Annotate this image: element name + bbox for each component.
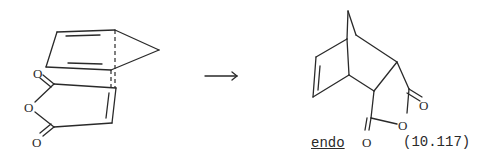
atom-o-bottom: O bbox=[32, 135, 41, 150]
reaction-arrow bbox=[205, 72, 237, 80]
forming-bonds-dashed bbox=[111, 30, 115, 88]
equation-number: (10.117) bbox=[403, 134, 470, 150]
atom-o-top: O bbox=[33, 66, 42, 81]
atom-o-ring-product: O bbox=[398, 118, 407, 133]
atom-o-ring: O bbox=[24, 100, 33, 115]
cyclopentadiene-structure bbox=[46, 30, 159, 70]
maleic-anhydride-structure: O O O bbox=[24, 66, 116, 150]
endo-label: endo bbox=[311, 135, 345, 151]
reaction-figure: O O O O bbox=[0, 0, 490, 165]
atom-o-carbonyl-bottom: O bbox=[362, 135, 371, 150]
atom-o-carbonyl-right: O bbox=[419, 98, 428, 113]
endo-adduct-structure: O O O bbox=[313, 11, 428, 150]
